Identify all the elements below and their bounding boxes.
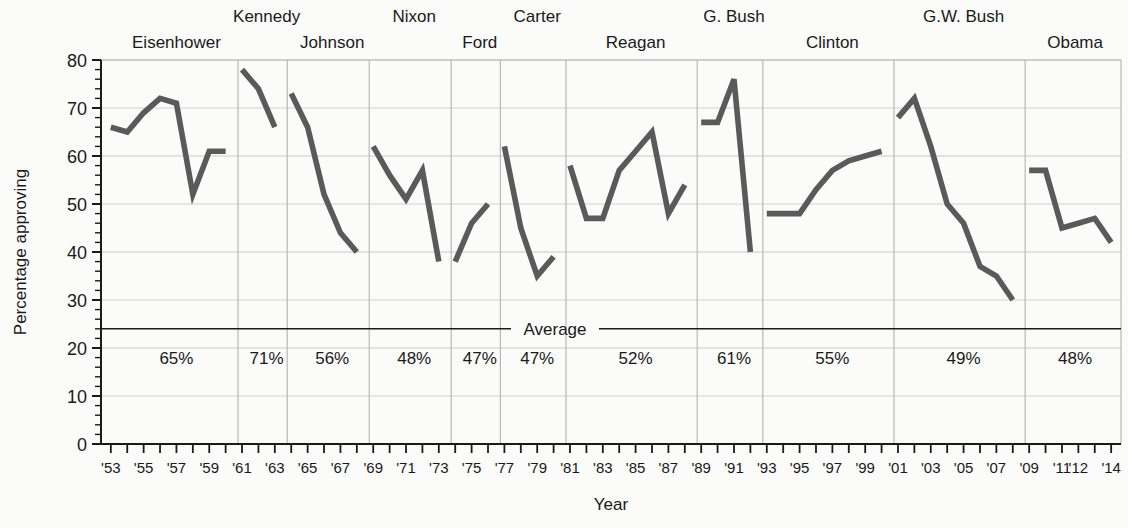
x-tick-label-01: '01 [888, 459, 908, 476]
y-tick-label-60: 60 [67, 147, 87, 167]
president-label-reagan: Reagan [606, 33, 666, 52]
x-tick-label-07: '07 [987, 459, 1007, 476]
x-tick-label-69: '69 [363, 459, 383, 476]
y-tick-label-70: 70 [67, 99, 87, 119]
president-label-g-bush: G. Bush [703, 7, 764, 26]
x-tick-label-65: '65 [298, 459, 318, 476]
president-label-clinton: Clinton [806, 33, 859, 52]
x-tick-label-12: '12 [1069, 459, 1089, 476]
x-tick-label-59: '59 [199, 459, 219, 476]
term-average-obama: 48% [1058, 349, 1092, 368]
y-tick-label-20: 20 [67, 339, 87, 359]
term-average-johnson: 56% [315, 349, 349, 368]
x-tick-label-67: '67 [331, 459, 351, 476]
president-label-eisenhower: Eisenhower [132, 33, 221, 52]
x-tick-label-05: '05 [954, 459, 974, 476]
approval-rating-chart: Average 01020304050607080 '53'55'57'59'6… [0, 0, 1128, 528]
x-tick-label-75: '75 [462, 459, 482, 476]
x-tick-label-61: '61 [232, 459, 252, 476]
president-label-obama: Obama [1047, 33, 1103, 52]
y-tick-label-0: 0 [77, 435, 87, 455]
president-label-nixon: Nixon [392, 7, 435, 26]
term-average-g-w-bush: 49% [947, 349, 981, 368]
x-tick-label-83: '83 [593, 459, 613, 476]
x-axis-title: Year [594, 495, 629, 514]
y-tick-label-30: 30 [67, 291, 87, 311]
x-tick-label-81: '81 [560, 459, 580, 476]
term-average-ford: 47% [463, 349, 497, 368]
term-average-eisenhower: 65% [159, 349, 193, 368]
x-tick-label-89: '89 [691, 459, 711, 476]
x-tick-label-14: '14 [1101, 459, 1121, 476]
x-tick-label-71: '71 [396, 459, 416, 476]
term-average-carter: 47% [520, 349, 554, 368]
x-tick-label-63: '63 [265, 459, 285, 476]
y-axis-title: Percentage approving [11, 169, 30, 335]
x-tick-label-91: '91 [724, 459, 744, 476]
chart-background [0, 0, 1128, 528]
x-tick-label-79: '79 [527, 459, 547, 476]
term-average-clinton: 55% [815, 349, 849, 368]
x-tick-label-93: '93 [757, 459, 777, 476]
x-tick-label-77: '77 [495, 459, 515, 476]
x-tick-label-57: '57 [167, 459, 187, 476]
president-label-carter: Carter [514, 7, 562, 26]
average-line-label: Average [523, 320, 586, 339]
term-average-nixon: 48% [397, 349, 431, 368]
president-label-johnson: Johnson [300, 33, 364, 52]
x-tick-label-03: '03 [921, 459, 941, 476]
y-tick-label-40: 40 [67, 243, 87, 263]
x-tick-label-55: '55 [134, 459, 154, 476]
x-tick-label-95: '95 [790, 459, 810, 476]
y-tick-label-10: 10 [67, 387, 87, 407]
chart-canvas: Average 01020304050607080 '53'55'57'59'6… [0, 0, 1128, 528]
y-tick-label-80: 80 [67, 51, 87, 71]
x-tick-label-53: '53 [101, 459, 121, 476]
x-tick-label-97: '97 [823, 459, 843, 476]
president-label-kennedy: Kennedy [233, 7, 301, 26]
y-tick-label-50: 50 [67, 195, 87, 215]
term-average-g-bush: 61% [717, 349, 751, 368]
x-tick-label-73: '73 [429, 459, 449, 476]
term-average-kennedy: 71% [250, 349, 284, 368]
x-tick-label-09: '09 [1019, 459, 1039, 476]
x-tick-label-87: '87 [659, 459, 679, 476]
president-label-g-w-bush: G.W. Bush [923, 7, 1004, 26]
term-average-reagan: 52% [619, 349, 653, 368]
president-label-ford: Ford [462, 33, 497, 52]
x-tick-label-99: '99 [855, 459, 875, 476]
x-tick-label-85: '85 [626, 459, 646, 476]
